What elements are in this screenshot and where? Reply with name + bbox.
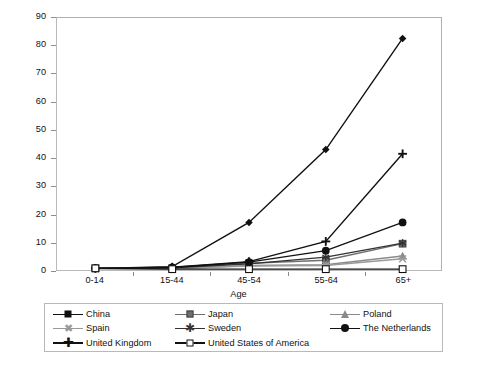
legend-item-china[interactable]: China [45, 307, 167, 321]
x-tick-label: 65+ [368, 275, 438, 285]
legend-marker-square-open-icon [175, 337, 205, 349]
x-tick-label: 15-44 [137, 275, 207, 285]
line-chart-figure: New cases per 100,000 person-years 01020… [0, 0, 477, 300]
legend-item-spain[interactable]: ✖Spain [45, 321, 167, 335]
data-point-marker [399, 219, 407, 227]
plot-inner [57, 18, 441, 270]
x-tick-mark [210, 272, 211, 276]
data-point-marker [322, 266, 329, 273]
x-tick-mark [365, 272, 366, 276]
legend-marker-triangle-icon [330, 308, 360, 320]
legend-marker-square-filled-icon [175, 308, 205, 320]
legend-label: Poland [360, 309, 392, 319]
legend-marker-asterisk-icon: ✱ [175, 322, 205, 334]
legend-label: The Netherlands [360, 323, 431, 333]
plot-area [56, 17, 442, 271]
y-tick-label: 50 [14, 125, 46, 134]
data-point-marker [322, 247, 330, 255]
x-tick-mark [288, 272, 289, 276]
y-tick-label: 90 [14, 12, 46, 21]
legend-label: Sweden [205, 323, 241, 333]
legend-label: China [83, 309, 110, 319]
legend-marker-diamond-filled-icon [53, 308, 83, 320]
data-point-marker [92, 265, 99, 272]
data-point-marker [246, 266, 253, 273]
data-point-marker [169, 266, 176, 273]
y-tick-label: 70 [14, 68, 46, 77]
x-axis-title: Age [0, 289, 477, 299]
chart-legend: ChinaJapanPoland✖Spain✱SwedenThe Netherl… [44, 303, 443, 352]
legend-label: United States of America [205, 338, 309, 348]
legend-label: United Kingdom [83, 338, 151, 348]
y-tick-label: 60 [14, 97, 46, 106]
legend-label: Spain [83, 323, 110, 333]
x-tick-label: 45-54 [214, 275, 284, 285]
y-tick-mark [51, 271, 56, 272]
legend-item-japan[interactable]: Japan [167, 307, 322, 321]
y-tick-label: 0 [14, 266, 46, 275]
legend-marker-circle-filled-icon [330, 322, 360, 334]
legend-marker-plus-icon: ✚ [53, 337, 83, 349]
x-tick-label: 0-14 [60, 275, 130, 285]
series-layer [57, 18, 441, 270]
legend-item-united-states-of-america[interactable]: United States of America [167, 336, 322, 350]
chart-page: New cases per 100,000 person-years 01020… [0, 0, 477, 376]
legend-grid: ChinaJapanPoland✖Spain✱SwedenThe Netherl… [45, 307, 442, 350]
legend-item-poland[interactable]: Poland [322, 307, 444, 321]
legend-item-the-netherlands[interactable]: The Netherlands [322, 321, 444, 335]
series-united-kingdom [91, 149, 407, 272]
y-tick-label: 10 [14, 238, 46, 247]
y-tick-label: 40 [14, 153, 46, 162]
legend-marker-x-icon: ✖ [53, 322, 83, 334]
y-tick-label: 20 [14, 210, 46, 219]
series-united-states-of-america [92, 265, 406, 273]
x-tick-label: 55-64 [291, 275, 361, 285]
y-tick-label: 30 [14, 181, 46, 190]
data-point-marker [399, 266, 406, 273]
series-china [92, 35, 407, 272]
y-tick-label: 80 [14, 40, 46, 49]
legend-label: Japan [205, 309, 233, 319]
legend-item-united-kingdom[interactable]: ✚United Kingdom [45, 336, 167, 350]
x-tick-mark [133, 272, 134, 276]
legend-item-sweden[interactable]: ✱Sweden [167, 321, 322, 335]
